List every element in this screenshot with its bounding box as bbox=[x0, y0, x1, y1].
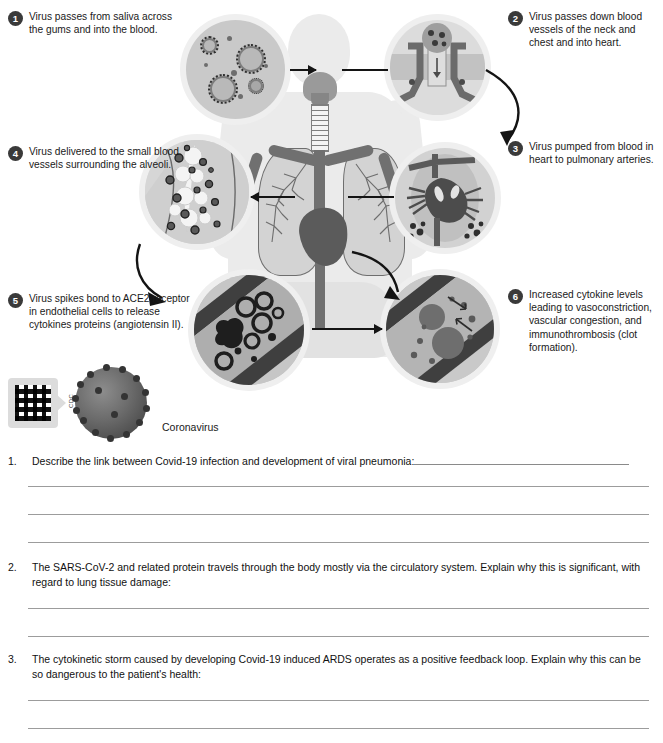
trachea-icon bbox=[311, 104, 329, 152]
callout-5-text: Virus spikes bond to ACE2 receptor in en… bbox=[29, 292, 198, 332]
coronavirus-particle-image bbox=[75, 367, 147, 439]
answer-line[interactable] bbox=[28, 700, 649, 701]
callout-4-text: Virus delivered to the small blood vesse… bbox=[29, 145, 188, 171]
callout-5: 5 Virus spikes bond to ACE2 receptor in … bbox=[8, 292, 198, 332]
answer-inline-rule-1[interactable] bbox=[414, 456, 629, 465]
arrow-to-inset4 bbox=[251, 196, 295, 198]
callout-2-badge: 2 bbox=[508, 11, 523, 26]
question-block-2: 2. The SARS-CoV-2 and related protein tr… bbox=[0, 548, 663, 640]
arrow-lungs-to-inset6 bbox=[346, 248, 408, 310]
arrow-1-to-throat bbox=[290, 69, 316, 71]
callout-2-text: Virus passes down blood vessels of the n… bbox=[529, 10, 658, 50]
callout-1-text: Virus passes from saliva across the gums… bbox=[29, 10, 188, 36]
coronavirus-caption: Coronavirus bbox=[162, 421, 219, 433]
connector-lungs-to-inset3 bbox=[348, 196, 394, 198]
answer-line[interactable] bbox=[28, 486, 649, 487]
callout-3: 3 Virus pumped from blood in heart to pu… bbox=[508, 140, 658, 166]
callout-3-text: Virus pumped from blood in heart to pulm… bbox=[529, 140, 658, 166]
qr-code-badge[interactable] bbox=[8, 378, 58, 428]
question-3-number: 3. bbox=[8, 652, 26, 681]
descending-aorta-icon bbox=[315, 258, 325, 328]
worksheet-questions: 1. Describe the link between Covid-19 in… bbox=[0, 448, 663, 740]
answer-line[interactable] bbox=[28, 514, 649, 515]
qr-callout-pointer bbox=[56, 394, 66, 412]
answer-line[interactable] bbox=[28, 542, 649, 543]
question-2-number: 2. bbox=[8, 560, 26, 589]
callout-1-badge: 1 bbox=[8, 11, 23, 26]
question-2-text: The SARS-CoV-2 and related protein trave… bbox=[32, 560, 649, 589]
answer-line[interactable] bbox=[28, 608, 649, 609]
callout-2: 2 Virus passes down blood vessels of the… bbox=[508, 10, 658, 50]
inset-saliva-virions bbox=[186, 20, 285, 119]
callout-6: 6 Increased cytokine levels leading to v… bbox=[508, 288, 658, 354]
callout-5-badge: 5 bbox=[8, 293, 23, 308]
qr-code-icon[interactable] bbox=[15, 385, 51, 421]
question-block-1: 1. Describe the link between Covid-19 in… bbox=[0, 448, 663, 548]
covid-pathway-diagram: 1 Virus passes from saliva across the gu… bbox=[0, 0, 663, 448]
callout-6-badge: 6 bbox=[508, 289, 523, 304]
cdc-credit-label: CDC bbox=[68, 394, 74, 408]
question-3-text: The cytokinetic storm caused by developi… bbox=[32, 652, 649, 681]
callout-6-text: Increased cytokine levels leading to vas… bbox=[529, 288, 658, 354]
inset-heart-pulmonary bbox=[395, 148, 495, 248]
question-block-3: 3. The cytokinetic storm caused by devel… bbox=[0, 640, 663, 740]
arrow-5-to-6 bbox=[312, 328, 382, 330]
callout-4-badge: 4 bbox=[8, 146, 23, 161]
callout-4: 4 Virus delivered to the small blood ves… bbox=[8, 145, 188, 171]
connector-throat-to-inset2 bbox=[342, 69, 388, 71]
inset-neck-vessels bbox=[390, 20, 485, 115]
question-1-number: 1. bbox=[8, 454, 26, 469]
aorta-stem-icon bbox=[314, 150, 325, 212]
inset-endothelial-cytokines bbox=[194, 275, 304, 385]
callout-3-badge: 3 bbox=[508, 141, 523, 156]
callout-1: 1 Virus passes from saliva across the gu… bbox=[8, 10, 188, 36]
answer-line[interactable] bbox=[28, 636, 649, 637]
answer-line[interactable] bbox=[28, 728, 649, 729]
question-1-text: Describe the link between Covid-19 infec… bbox=[32, 454, 649, 469]
